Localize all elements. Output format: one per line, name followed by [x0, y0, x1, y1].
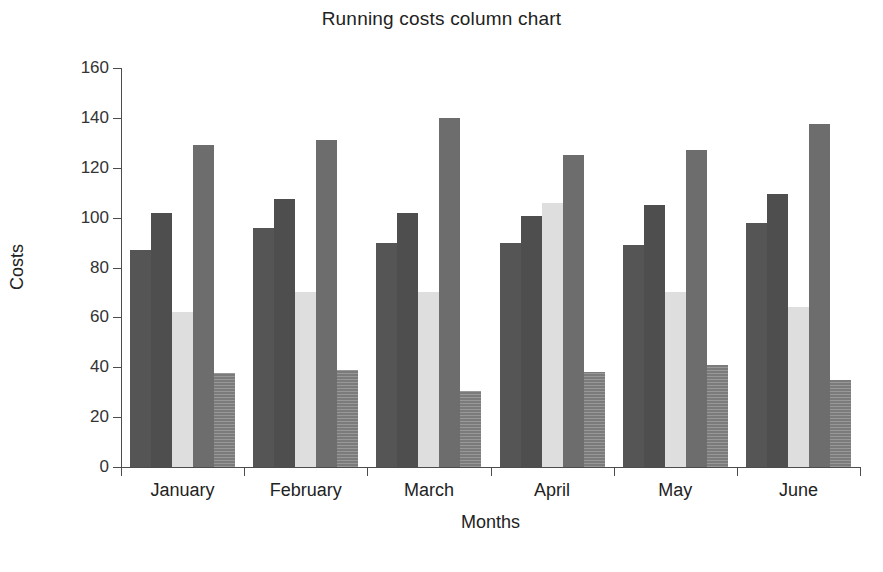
bar — [809, 124, 830, 467]
bar — [644, 205, 665, 467]
y-tick — [113, 417, 121, 418]
bar — [439, 118, 460, 467]
y-axis-tick-labels: 020406080100120140160 — [63, 68, 109, 467]
x-tick-label: January — [151, 480, 215, 501]
bar — [172, 312, 193, 467]
x-tick-label: June — [779, 480, 818, 501]
x-tick — [860, 467, 861, 476]
y-tick — [113, 317, 121, 318]
bar — [767, 194, 788, 467]
y-tick-label: 80 — [63, 258, 109, 278]
bar-group — [130, 68, 235, 467]
bar — [397, 213, 418, 467]
y-tick-label: 60 — [63, 307, 109, 327]
bar-group — [746, 68, 851, 467]
y-tick-label: 0 — [63, 457, 109, 477]
y-tick-label: 40 — [63, 357, 109, 377]
bar — [214, 373, 235, 467]
x-tick — [244, 467, 245, 476]
bar — [376, 243, 397, 467]
bar-group — [376, 68, 481, 467]
chart-title: Running costs column chart — [0, 8, 883, 30]
bar — [418, 292, 439, 467]
y-tick — [113, 367, 121, 368]
bar — [788, 307, 809, 467]
y-tick-label: 100 — [63, 208, 109, 228]
bar — [130, 250, 151, 467]
x-axis-title: Months — [121, 512, 860, 533]
x-tick — [367, 467, 368, 476]
chart-figure: Running costs column chart 0204060801001… — [0, 0, 883, 572]
x-axis-tick-labels: JanuaryFebruaryMarchAprilMayJune — [121, 480, 860, 510]
bar — [542, 203, 563, 467]
bar-group — [500, 68, 605, 467]
bar — [500, 243, 521, 467]
bar — [460, 391, 481, 467]
bar — [253, 228, 274, 467]
y-tick-label: 140 — [63, 108, 109, 128]
bar — [521, 216, 542, 467]
bar — [274, 199, 295, 467]
bar — [193, 145, 214, 467]
bar-group — [623, 68, 728, 467]
x-tick — [614, 467, 615, 476]
plot-area: 020406080100120140160 JanuaryFebruaryMar… — [121, 68, 860, 467]
bar — [295, 292, 316, 467]
y-tick — [113, 68, 121, 69]
bar — [151, 213, 172, 467]
y-tick-label: 160 — [63, 58, 109, 78]
bar — [316, 140, 337, 467]
x-tick-label: March — [404, 480, 454, 501]
x-tick-label: February — [270, 480, 342, 501]
y-tick-label: 20 — [63, 407, 109, 427]
bar — [707, 365, 728, 467]
y-tick — [113, 118, 121, 119]
bar-group — [253, 68, 358, 467]
bar — [337, 370, 358, 467]
y-axis-title: Costs — [7, 244, 28, 290]
bar — [665, 292, 686, 467]
x-tick-label: May — [658, 480, 692, 501]
y-tick — [113, 168, 121, 169]
y-tick-label: 120 — [63, 158, 109, 178]
x-tick-label: April — [534, 480, 570, 501]
figure-caption — [14, 556, 874, 572]
x-tick — [491, 467, 492, 476]
x-tick — [737, 467, 738, 476]
bar — [686, 150, 707, 467]
bar — [746, 223, 767, 467]
bar — [584, 372, 605, 467]
y-tick — [113, 268, 121, 269]
bar — [830, 380, 851, 467]
bar — [623, 245, 644, 467]
bar — [563, 155, 584, 467]
y-tick — [113, 218, 121, 219]
y-axis-line — [121, 68, 122, 467]
x-tick — [121, 467, 122, 476]
y-tick — [113, 467, 121, 468]
